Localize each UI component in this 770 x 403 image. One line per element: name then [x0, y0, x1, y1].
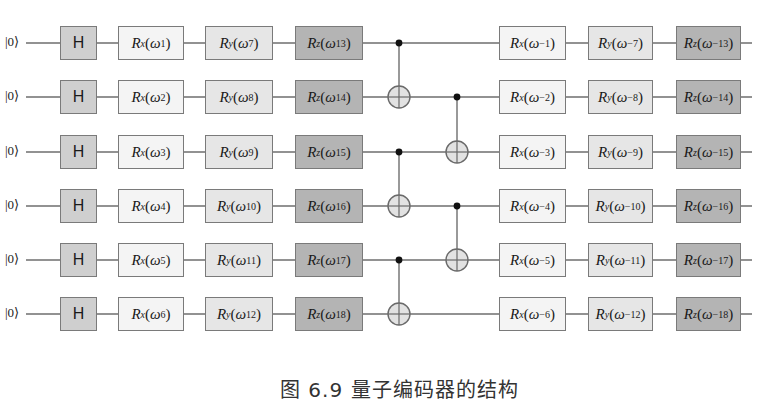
angle-symbol: ω: [325, 252, 336, 269]
rotation-symbol: R: [510, 89, 519, 106]
hadamard-gate: H: [60, 26, 97, 60]
angle-symbol: ω: [325, 306, 336, 323]
angle-symbol: ω: [150, 306, 161, 323]
rotation-symbol: R: [131, 198, 140, 215]
initial-state-label: |0⟩: [5, 88, 19, 104]
hadamard-gate: H: [60, 135, 97, 169]
ry-inverse-gate: Ry(ω−11): [588, 243, 653, 277]
angle-index: −10: [625, 201, 641, 212]
ry-inverse-gate: Ry(ω−10): [588, 189, 653, 223]
rz-inverse-gate: Rz(ω−13): [676, 26, 741, 60]
ry-gate: Ry(ω11): [205, 243, 273, 277]
cnot-target-icon: [388, 86, 410, 108]
angle-index: −9: [627, 147, 638, 158]
angle-symbol: ω: [702, 198, 713, 215]
angle-symbol: ω: [702, 89, 713, 106]
angle-symbol: ω: [614, 306, 625, 323]
angle-index: 10: [246, 201, 256, 212]
angle-symbol: ω: [236, 198, 247, 215]
ry-inverse-gate: Ry(ω−12): [588, 297, 653, 331]
angle-symbol: ω: [529, 306, 540, 323]
rotation-symbol: R: [307, 252, 316, 269]
angle-index: −15: [713, 147, 729, 158]
angle-symbol: ω: [617, 89, 628, 106]
rz-gate: Rz(ω14): [295, 80, 363, 114]
angle-index: −11: [625, 255, 640, 266]
cnot-target-icon: [388, 303, 410, 325]
rotation-symbol: R: [684, 35, 693, 52]
ry-inverse-gate: Ry(ω−8): [588, 80, 653, 114]
control-dot-icon: [454, 94, 461, 101]
rotation-symbol: R: [307, 306, 316, 323]
rz-inverse-gate: Rz(ω−14): [676, 80, 741, 114]
angle-symbol: ω: [529, 144, 540, 161]
angle-symbol: ω: [702, 306, 713, 323]
rotation-symbol: R: [510, 306, 519, 323]
rotation-symbol: R: [598, 89, 607, 106]
rotation-symbol: R: [307, 198, 316, 215]
rx-gate: Rx(ω5): [118, 243, 184, 277]
ry-inverse-gate: Ry(ω−7): [588, 26, 653, 60]
ry-gate: Ry(ω7): [205, 26, 273, 60]
angle-symbol: ω: [236, 306, 247, 323]
rx-inverse-gate: Rx(ω−4): [499, 189, 566, 223]
angle-symbol: ω: [236, 252, 247, 269]
rx-inverse-gate: Rx(ω−6): [499, 297, 566, 331]
rotation-symbol: R: [219, 89, 228, 106]
angle-index: −1: [539, 38, 550, 49]
rotation-symbol: R: [684, 252, 693, 269]
rotation-symbol: R: [596, 198, 605, 215]
cnot-target-icon: [446, 249, 468, 271]
initial-state-label: |0⟩: [5, 34, 19, 50]
control-dot-icon: [396, 149, 403, 156]
angle-index: −12: [625, 309, 641, 320]
rz-gate: Rz(ω16): [295, 189, 363, 223]
angle-symbol: ω: [150, 35, 161, 52]
rotation-symbol: R: [596, 252, 605, 269]
rz-gate: Rz(ω13): [295, 26, 363, 60]
angle-symbol: ω: [238, 144, 249, 161]
rotation-symbol: R: [219, 144, 228, 161]
angle-index: 18: [336, 309, 346, 320]
angle-symbol: ω: [238, 35, 249, 52]
angle-index: −2: [539, 92, 550, 103]
angle-index: 13: [336, 38, 346, 49]
rotation-symbol: R: [684, 89, 693, 106]
angle-index: −7: [627, 38, 638, 49]
angle-symbol: ω: [529, 89, 540, 106]
angle-symbol: ω: [702, 35, 713, 52]
angle-index: −14: [713, 92, 729, 103]
initial-state-label: |0⟩: [5, 251, 19, 267]
ry-gate: Ry(ω12): [205, 297, 273, 331]
rotation-symbol: R: [217, 198, 226, 215]
rz-inverse-gate: Rz(ω−17): [676, 243, 741, 277]
angle-index: −3: [539, 147, 550, 158]
angle-symbol: ω: [614, 198, 625, 215]
rz-gate: Rz(ω15): [295, 135, 363, 169]
angle-symbol: ω: [238, 89, 249, 106]
ry-inverse-gate: Ry(ω−9): [588, 135, 653, 169]
rotation-symbol: R: [131, 252, 140, 269]
angle-symbol: ω: [702, 144, 713, 161]
initial-state-label: |0⟩: [5, 305, 19, 321]
rotation-symbol: R: [131, 306, 140, 323]
control-dot-icon: [454, 203, 461, 210]
angle-symbol: ω: [150, 198, 161, 215]
ry-gate: Ry(ω8): [205, 80, 273, 114]
rx-inverse-gate: Rx(ω−2): [499, 80, 566, 114]
hadamard-gate: H: [60, 80, 97, 114]
control-dot-icon: [396, 257, 403, 264]
rx-gate: Rx(ω4): [118, 189, 184, 223]
rotation-symbol: R: [510, 198, 519, 215]
angle-symbol: ω: [617, 144, 628, 161]
hadamard-gate: H: [60, 243, 97, 277]
rotation-symbol: R: [510, 144, 519, 161]
angle-symbol: ω: [150, 144, 161, 161]
rx-gate: Rx(ω6): [118, 297, 184, 331]
angle-index: −8: [627, 92, 638, 103]
cnot-target-icon: [388, 195, 410, 217]
rotation-symbol: R: [131, 35, 140, 52]
initial-state-label: |0⟩: [5, 197, 19, 213]
